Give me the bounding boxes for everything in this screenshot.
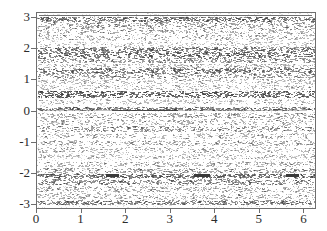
scatter-band [37,201,315,205]
x-tick-label: 1 [69,212,93,225]
x-tick-mark [214,209,215,213]
x-tick-label: 0 [24,212,48,225]
x-tick-label: 4 [202,212,226,225]
x-tick-mark [36,209,37,213]
plot-area [36,12,316,209]
scatter-band [37,47,315,51]
y-tick-mark [31,17,36,18]
x-tick-label: 5 [247,212,271,225]
scatter-band [38,52,315,58]
scatter-band [38,154,315,159]
y-tick-mark [31,142,36,143]
scatter-band [39,133,312,138]
scatter-band [38,35,315,41]
y-tick-mark [31,204,36,205]
x-tick-label: 6 [291,212,315,225]
scatter-band [38,73,315,78]
scatter-band [37,17,315,21]
scatter-band [38,21,315,27]
x-tick-label: 2 [113,212,137,225]
y-tick-label: -1 [0,135,30,148]
x-tick-mark [303,209,304,213]
x-tick-mark [170,209,171,213]
scatter-band [37,85,312,90]
scatter-band [38,58,315,63]
y-tick-mark [31,111,36,112]
chart-figure: 3210-1-2-3 0123456 [0,0,327,231]
x-tick-mark [259,209,260,213]
scatter-band [38,79,315,84]
y-tick-label: 1 [0,72,30,85]
y-tick-label: -2 [0,166,30,179]
scatter-band [39,99,315,104]
y-tick-label: -3 [0,197,30,210]
x-tick-mark [81,209,82,213]
y-tick-mark [31,48,36,49]
scatter-band [38,113,315,118]
y-tick-label: 0 [0,104,30,117]
x-tick-mark [125,209,126,213]
scatter-band [37,68,315,73]
scatter-band [37,126,315,132]
scatter-band [37,194,315,200]
y-tick-label: 3 [0,10,30,23]
x-tick-label: 3 [158,212,182,225]
scatter-band [37,28,315,34]
y-tick-label: 2 [0,41,30,54]
y-tick-mark [31,173,36,174]
scatter-band [38,180,315,186]
scatter-band [37,187,315,193]
scatter-points-layer [37,13,315,208]
scatter-band [38,42,312,47]
scatter-band [37,162,315,167]
y-tick-mark [31,79,36,80]
scatter-band [37,168,315,173]
